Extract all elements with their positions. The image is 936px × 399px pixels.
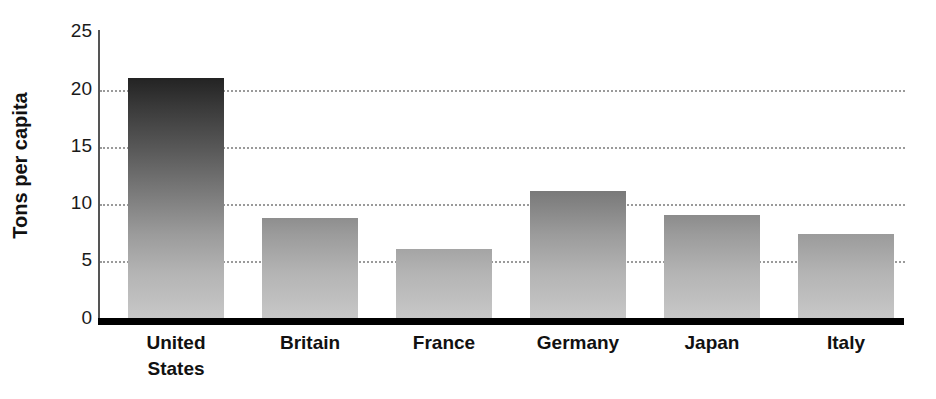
y-tick-label: 10 — [50, 192, 92, 214]
x-tick-label-line1: France — [413, 332, 475, 353]
bar-series — [98, 30, 905, 322]
x-tick-label-japan: Japan — [664, 330, 760, 356]
x-tick-label-united-states: United States — [128, 330, 224, 382]
bar-japan — [664, 215, 760, 322]
x-tick-label-line1: Japan — [685, 332, 740, 353]
bar-fill — [664, 215, 760, 322]
bar-fill — [262, 218, 358, 322]
y-tick-label: 25 — [50, 20, 92, 42]
y-axis-title: Tons per capita — [0, 0, 40, 330]
y-tick-label: 5 — [50, 249, 92, 271]
x-tick-label-line1: Italy — [827, 332, 865, 353]
x-tick-label-germany: Germany — [530, 330, 626, 356]
y-tick-label: 15 — [50, 135, 92, 157]
bar-fill — [128, 78, 224, 322]
x-tick-label-line1: United — [146, 332, 205, 353]
y-axis-title-text: Tons per capita — [9, 92, 32, 238]
bar-united-states — [128, 78, 224, 322]
bar-britain — [262, 218, 358, 322]
x-tick-label-france: France — [396, 330, 492, 356]
plot-area — [98, 30, 905, 322]
x-tick-label-italy: Italy — [798, 330, 894, 356]
bar-fill — [396, 249, 492, 322]
y-tick-label: 0 — [50, 307, 92, 329]
x-axis-tick-labels: United States Britain France Germany Jap… — [98, 330, 905, 399]
bar-chart: Tons per capita 25 20 15 10 5 0 United S… — [0, 0, 936, 399]
y-axis-tick-labels: 25 20 15 10 5 0 — [46, 0, 92, 399]
x-tick-label-line2: States — [128, 356, 224, 382]
bar-france — [396, 249, 492, 322]
bar-fill — [530, 191, 626, 322]
bar-fill — [798, 234, 894, 322]
x-tick-label-britain: Britain — [262, 330, 358, 356]
x-tick-label-line1: Britain — [280, 332, 340, 353]
bar-germany — [530, 191, 626, 322]
bar-italy — [798, 234, 894, 322]
x-axis-baseline — [98, 318, 904, 325]
y-tick-label: 20 — [50, 78, 92, 100]
x-tick-label-line1: Germany — [537, 332, 619, 353]
